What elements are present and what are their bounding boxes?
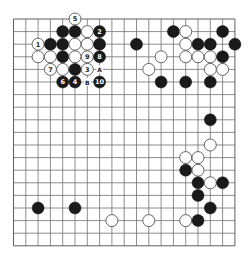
black-stone-icon xyxy=(57,26,69,38)
black-stone-icon xyxy=(192,215,204,227)
black-stone-icon xyxy=(180,164,192,176)
white-stone xyxy=(180,215,192,227)
white-stone xyxy=(204,139,216,151)
move-number: 8 xyxy=(97,53,102,61)
black-stone xyxy=(204,202,216,214)
black-stone-icon xyxy=(57,51,69,63)
black-stone-icon xyxy=(167,26,179,38)
white-stone xyxy=(143,215,155,227)
black-stone-icon xyxy=(204,38,216,50)
go-board-diagram: AB 52198736410 xyxy=(0,0,252,259)
white-stone xyxy=(180,38,192,50)
white-stone xyxy=(192,51,204,63)
black-stone xyxy=(217,177,229,189)
white-stone xyxy=(81,38,93,50)
white-stone xyxy=(192,152,204,164)
black-stone xyxy=(192,189,204,201)
black-stone-icon xyxy=(192,177,204,189)
black-stone xyxy=(180,164,192,176)
white-stone-icon xyxy=(204,177,216,189)
white-stone xyxy=(57,63,69,75)
white-stone-icon xyxy=(106,215,118,227)
black-stone-icon xyxy=(217,177,229,189)
white-stone xyxy=(180,152,192,164)
white-stone-icon xyxy=(180,51,192,63)
white-stone-icon xyxy=(69,38,81,50)
white-stone-icon xyxy=(204,139,216,151)
white-stone xyxy=(204,177,216,189)
white-stone-icon xyxy=(57,63,69,75)
black-stone-icon xyxy=(69,26,81,38)
black-stone-icon xyxy=(192,189,204,201)
black-stone-icon xyxy=(69,63,81,75)
black-stone-icon xyxy=(94,38,106,50)
black-stone-icon xyxy=(131,38,143,50)
black-stone xyxy=(155,76,167,88)
black-stone xyxy=(69,63,81,75)
white-stone-icon xyxy=(44,51,56,63)
white-stone-icon xyxy=(32,51,44,63)
black-stone xyxy=(204,76,216,88)
black-stone xyxy=(131,38,143,50)
move-number: 10 xyxy=(95,78,105,86)
black-stone-icon xyxy=(57,38,69,50)
black-stone xyxy=(57,51,69,63)
black-stone xyxy=(167,26,179,38)
black-stone-icon xyxy=(44,38,56,50)
white-stone-icon xyxy=(143,215,155,227)
white-stone-move-7: 7 xyxy=(44,63,56,75)
black-stone-icon xyxy=(229,38,241,50)
white-stone xyxy=(32,51,44,63)
white-stone-icon xyxy=(180,38,192,50)
move-number: 4 xyxy=(73,78,78,86)
black-stone xyxy=(192,38,204,50)
white-stone xyxy=(192,164,204,176)
white-stone-move-5: 5 xyxy=(69,13,81,25)
white-stone-icon xyxy=(217,63,229,75)
black-stone xyxy=(32,202,44,214)
white-stone-move-9: 9 xyxy=(81,51,93,63)
white-stone xyxy=(69,38,81,50)
black-stone xyxy=(57,38,69,50)
white-stone xyxy=(217,63,229,75)
go-board: AB 52198736410 xyxy=(0,0,252,259)
white-stone-icon xyxy=(81,26,93,38)
move-number: 9 xyxy=(85,53,90,61)
white-stone-icon xyxy=(143,63,155,75)
white-stone xyxy=(180,26,192,38)
black-stone-icon xyxy=(69,202,81,214)
black-stone xyxy=(204,114,216,126)
marker-label: A xyxy=(97,66,102,73)
black-stone-move-2: 2 xyxy=(94,26,106,38)
white-stone xyxy=(44,51,56,63)
black-stone-icon xyxy=(192,38,204,50)
white-stone-icon xyxy=(180,26,192,38)
black-stone-icon xyxy=(204,114,216,126)
black-stone xyxy=(69,26,81,38)
black-stone xyxy=(44,38,56,50)
black-stone xyxy=(94,38,106,50)
white-stone xyxy=(180,51,192,63)
black-stone xyxy=(217,26,229,38)
black-stone-icon xyxy=(155,76,167,88)
white-stone xyxy=(106,215,118,227)
black-stone xyxy=(204,38,216,50)
white-stone-icon xyxy=(180,215,192,227)
point-marker-a: A xyxy=(96,65,103,73)
white-stone-move-1: 1 xyxy=(32,38,44,50)
black-stone-icon xyxy=(204,76,216,88)
white-stone-icon xyxy=(81,38,93,50)
marker-label: B xyxy=(85,79,90,86)
white-stone-icon xyxy=(192,51,204,63)
white-stone xyxy=(69,51,81,63)
black-stone xyxy=(192,215,204,227)
white-stone xyxy=(204,51,216,63)
black-stone-icon xyxy=(32,202,44,214)
move-number: 7 xyxy=(48,66,53,74)
black-stone-icon xyxy=(204,202,216,214)
black-stone-move-8: 8 xyxy=(94,51,106,63)
white-stone-icon xyxy=(192,152,204,164)
black-stone-move-4: 4 xyxy=(69,76,81,88)
white-stone xyxy=(155,51,167,63)
move-number: 5 xyxy=(73,15,78,23)
